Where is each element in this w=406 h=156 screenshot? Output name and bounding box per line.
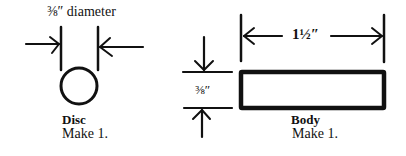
arrow-right-icon — [331, 28, 382, 44]
body-rectangle — [241, 72, 384, 108]
body-height-label: ⅜″ — [195, 82, 210, 98]
arrow-up-icon — [193, 110, 210, 137]
body-quantity: Make 1. — [292, 126, 338, 142]
arrow-right-icon — [26, 37, 59, 53]
arrow-left-icon — [100, 38, 143, 56]
disc-circle — [61, 68, 97, 104]
arrow-down-icon — [195, 37, 213, 70]
disc-quantity: Make 1. — [62, 126, 108, 142]
body-width-label: 1½″ — [292, 26, 319, 43]
arrow-left-icon — [244, 28, 282, 44]
diagram-canvas — [0, 0, 406, 156]
disc-diameter-label: ⅜″ diameter — [47, 4, 116, 20]
